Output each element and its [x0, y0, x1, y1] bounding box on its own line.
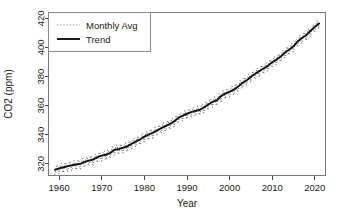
y-tick-label: 320: [35, 156, 46, 172]
x-tick-label: 2000: [219, 182, 240, 193]
legend-label-monthly-avg: Monthly Avg: [86, 20, 138, 31]
x-tick-label: 2010: [262, 182, 283, 193]
chart-canvas: 320340360380400420 196019701980199020002…: [0, 0, 339, 223]
x-tick-label: 1990: [176, 182, 197, 193]
legend-label-trend: Trend: [86, 34, 110, 45]
x-axis-title: Year: [177, 198, 198, 209]
x-tick-label: 2020: [304, 182, 325, 193]
x-axis: 1960197019801990200020102020: [49, 176, 326, 193]
y-tick-label: 360: [35, 98, 46, 114]
y-tick-label: 420: [35, 10, 46, 26]
y-tick-label: 340: [35, 127, 46, 143]
legend-box: [49, 13, 151, 52]
y-axis-title: CO2 (ppm): [3, 69, 14, 118]
co2-chart: 320340360380400420 196019701980199020002…: [0, 0, 339, 223]
legend[interactable]: Monthly Avg Trend: [49, 13, 151, 52]
x-tick-label: 1970: [91, 182, 112, 193]
y-tick-label: 380: [35, 69, 46, 85]
y-tick-label: 400: [35, 39, 46, 55]
y-axis: 320340360380400420: [35, 10, 49, 171]
x-tick-label: 1980: [134, 182, 155, 193]
x-tick-label: 1960: [49, 182, 70, 193]
